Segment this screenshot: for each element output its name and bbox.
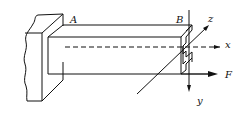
- channel-section: [181, 25, 192, 74]
- label-F: F: [225, 70, 232, 80]
- label-z: z: [208, 14, 213, 24]
- label-A: A: [70, 15, 77, 25]
- beam: [48, 25, 192, 74]
- label-B: B: [176, 15, 183, 25]
- label-y: y: [197, 96, 203, 106]
- label-x: x: [225, 40, 231, 50]
- fixed-wall: [24, 14, 63, 101]
